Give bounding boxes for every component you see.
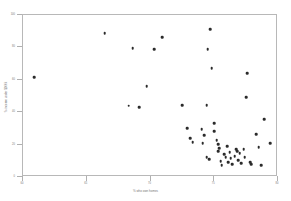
data-point (260, 164, 263, 167)
data-point (228, 151, 231, 154)
x-axis-tick-label: 60 (21, 182, 24, 185)
y-axis-tick (17, 14, 22, 15)
data-point (128, 104, 131, 107)
data-point (210, 67, 213, 70)
x-axis-tick-label: 80 (276, 182, 279, 185)
data-point (161, 36, 164, 39)
data-point (207, 48, 210, 51)
data-point (203, 134, 206, 137)
data-point (242, 148, 245, 151)
data-point (227, 161, 230, 164)
data-point (189, 137, 192, 140)
data-point (208, 158, 211, 161)
data-point (103, 32, 106, 35)
data-point (233, 155, 236, 158)
data-point (238, 152, 241, 155)
data-point (269, 142, 272, 145)
x-axis-title: % who own homes (0, 189, 291, 193)
data-point (237, 159, 240, 162)
plot-frame (22, 14, 277, 176)
data-point (205, 104, 208, 107)
data-point (186, 127, 189, 130)
data-point (224, 156, 227, 159)
y-axis-title: % income under $100k (4, 57, 8, 137)
y-axis-tick (17, 111, 22, 112)
data-point (240, 162, 243, 165)
y-axis-tick (17, 79, 22, 80)
x-axis-tick (22, 176, 23, 181)
x-axis-tick-label: 65 (84, 182, 87, 185)
data-point (201, 142, 204, 145)
x-axis-tick (150, 176, 151, 181)
data-point (244, 156, 247, 159)
y-axis-tick-label: 100 (1, 13, 15, 16)
x-axis-tick-label: 75 (212, 182, 215, 185)
data-point (221, 164, 224, 167)
data-point (153, 48, 156, 51)
data-point (33, 76, 36, 79)
data-point (231, 163, 234, 166)
y-axis-tick (17, 46, 22, 47)
data-point (181, 104, 184, 107)
data-point (245, 96, 248, 99)
data-point (230, 157, 233, 160)
x-axis-tick (277, 176, 278, 181)
data-point (250, 163, 253, 166)
data-point (218, 147, 221, 150)
data-point (246, 72, 249, 75)
data-point (219, 160, 222, 163)
x-axis-tick (86, 176, 87, 181)
data-point (191, 141, 194, 144)
y-axis-tick-label: 80 (1, 45, 15, 48)
data-point (226, 145, 229, 148)
data-point (255, 133, 258, 136)
data-point (258, 146, 261, 149)
data-point (145, 85, 148, 88)
y-axis-tick-label: 40 (1, 110, 15, 113)
y-axis-tick-label: 20 (1, 142, 15, 145)
y-axis-tick-label: 0 (1, 175, 15, 178)
data-point (263, 118, 266, 121)
scatter-plot-figure: % income under $100k % who own homes 020… (0, 0, 291, 201)
data-point (213, 122, 216, 125)
data-point (209, 28, 212, 31)
data-point (131, 47, 134, 50)
data-point (200, 128, 203, 131)
data-point (217, 143, 220, 146)
data-point (216, 139, 219, 142)
data-point (213, 130, 216, 133)
y-axis-tick-label: 60 (1, 77, 15, 80)
data-point (138, 106, 141, 109)
y-axis-tick (17, 144, 22, 145)
x-axis-tick (213, 176, 214, 181)
data-points-layer (23, 15, 276, 175)
data-point (217, 150, 220, 153)
x-axis-tick-label: 70 (148, 182, 151, 185)
